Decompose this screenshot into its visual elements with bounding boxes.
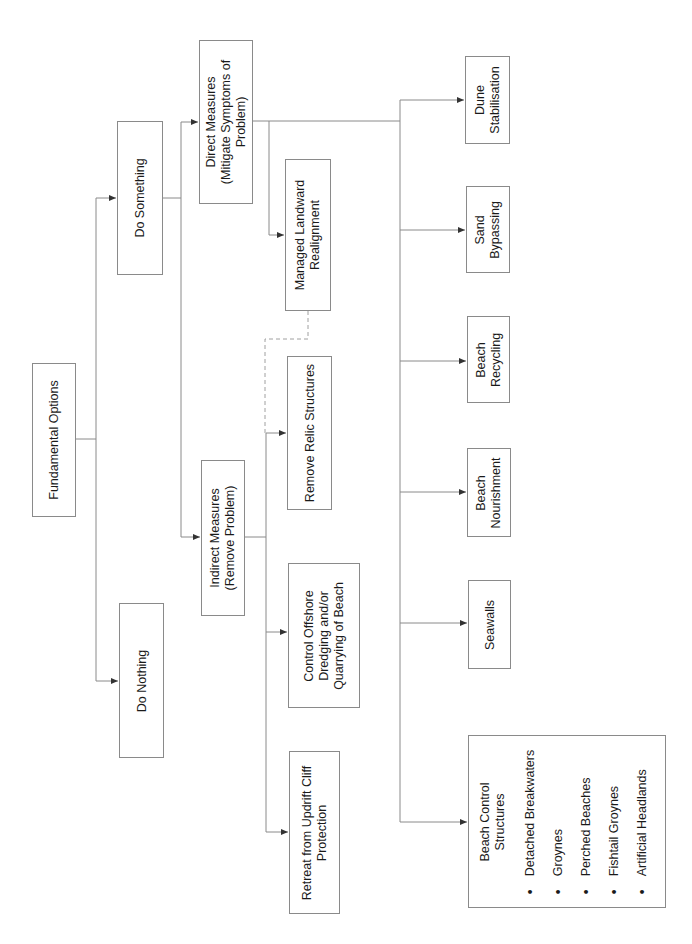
control-dredging-line1: Control Offshore [302, 582, 317, 690]
indirect-measures-box: Indirect Measures (Remove Problem) [201, 460, 245, 616]
list-item: •Groynes [544, 749, 572, 893]
fundamental-options-box: Fundamental Options [32, 363, 76, 517]
sand-line1: Sand [473, 201, 488, 259]
managed-realignment-line2: Realignment [308, 180, 323, 291]
nourishment-line2: Nourishment [489, 457, 504, 528]
control-dredging-line2: Dredging and/or [317, 582, 332, 690]
beach-control-title-line2: Structures [493, 749, 508, 893]
bullet-icon: • [606, 876, 622, 894]
direct-measures-line2: (Mitigate Symptoms of [219, 60, 234, 184]
bullet-icon: • [550, 876, 566, 894]
list-item: •Detached Breakwaters [516, 749, 544, 893]
dune-line1: Dune [473, 66, 488, 133]
do-nothing-box: Do Nothing [119, 603, 164, 758]
do-nothing-label: Do Nothing [134, 649, 149, 712]
do-something-label: Do Something [133, 158, 148, 237]
recycling-line2: Recycling [489, 332, 504, 386]
control-dredging-box: Control Offshore Dredging and/or Quarryi… [288, 563, 360, 708]
indirect-measures-line1: Indirect Measures [208, 486, 223, 591]
beach-nourishment-box: Beach Nourishment [467, 448, 511, 537]
list-item: •Artificial Headlands [628, 749, 656, 893]
dune-line2: Stabilisation [488, 66, 503, 133]
managed-realignment-line1: Managed Landward [293, 180, 308, 291]
bullet-icon: • [522, 876, 538, 894]
indirect-measures-line2: (Remove Problem) [223, 486, 238, 591]
remove-relic-structures-label: Remove Relic Structures [302, 364, 317, 502]
managed-realignment-box: Managed Landward Realignment [285, 159, 331, 311]
fundamental-options-label: Fundamental Options [47, 380, 62, 500]
list-item: •Fishtail Groynes [600, 749, 628, 893]
recycling-line1: Beach [474, 332, 489, 386]
beach-control-title-line1: Beach Control [478, 749, 493, 893]
direct-measures-line1: Direct Measures [204, 60, 219, 184]
bullet-icon: • [634, 876, 650, 894]
remove-relic-structures-box: Remove Relic Structures [287, 356, 332, 510]
beach-control-structures-box: Beach Control Structures •Detached Break… [468, 735, 666, 908]
control-dredging-line3: Quarrying of Beach [332, 582, 347, 690]
seawalls-box: Seawalls [468, 580, 511, 669]
direct-measures-line3: Problem) [234, 60, 249, 184]
retreat-cliff-protection-box: Retreat from Updrift Cliff Protection [289, 751, 340, 914]
beach-recycling-box: Beach Recycling [467, 316, 510, 403]
direct-measures-box: Direct Measures (Mitigate Symptoms of Pr… [199, 40, 253, 204]
retreat-line2: Protection [315, 765, 330, 900]
dune-stabilisation-box: Dune Stabilisation [465, 56, 510, 144]
list-item: •Perched Beaches [572, 749, 600, 893]
seawalls-label: Seawalls [482, 599, 497, 649]
do-something-box: Do Something [117, 121, 163, 275]
sand-line2: Bypassing [488, 201, 503, 259]
sand-bypassing-box: Sand Bypassing [466, 186, 510, 273]
bullet-icon: • [578, 876, 594, 894]
nourishment-line1: Beach [474, 457, 489, 528]
retreat-line1: Retreat from Updrift Cliff [300, 765, 315, 900]
